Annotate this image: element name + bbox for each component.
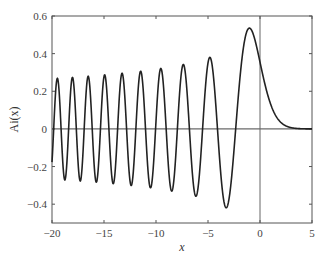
y-tick-label: 0.2 — [33, 85, 47, 97]
y-tick-label: −0.2 — [27, 161, 47, 173]
axis-ticks: −20−15−10−505−0.4−0.200.20.40.6 — [27, 10, 315, 239]
x-tick-label: −15 — [95, 227, 113, 239]
airy-curve — [52, 28, 312, 208]
y-axis-label: Ai(x) — [7, 107, 21, 133]
y-tick-label: 0 — [42, 123, 48, 135]
y-tick-label: 0.4 — [33, 48, 47, 60]
airy-function-chart: −20−15−10−505−0.4−0.200.20.40.6 x Ai(x) — [0, 0, 325, 260]
x-tick-label: 0 — [257, 227, 263, 239]
x-tick-label: −10 — [147, 227, 165, 239]
x-tick-label: 5 — [309, 227, 315, 239]
x-tick-label: −20 — [43, 227, 61, 239]
y-tick-label: 0.6 — [33, 10, 47, 22]
x-axis-label: x — [178, 240, 185, 254]
x-tick-label: −5 — [202, 227, 214, 239]
y-tick-label: −0.4 — [27, 198, 47, 210]
